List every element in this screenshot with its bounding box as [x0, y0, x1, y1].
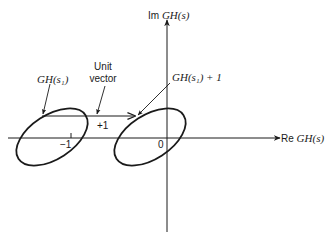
gh-s1-pointer [43, 84, 50, 114]
left-contour [6, 97, 97, 177]
unit-vector-label-line1: Unit [92, 62, 114, 72]
im-axis-func: GH(s) [162, 9, 190, 21]
re-axis-func: GH(s) [297, 132, 325, 144]
im-axis-prefix: Im [148, 10, 159, 21]
nyquist-diagram [0, 0, 327, 238]
right-contour [104, 97, 195, 177]
plus-one-label: +1 [97, 121, 108, 131]
minus-one-label: −1 [60, 140, 71, 150]
origin-label: 0 [158, 140, 164, 150]
unit-vector-pointer [97, 86, 105, 114]
re-axis-prefix: Re [281, 133, 294, 144]
gh-s1-label: GH(s₁) [37, 74, 68, 85]
gh-s1-plus-1-label: GH(s₁) + 1 [172, 72, 222, 83]
re-axis-label: Re GH(s) [281, 133, 324, 144]
unit-vector-label-line2: vector [88, 74, 118, 84]
im-axis-label: Im GH(s) [148, 10, 189, 21]
